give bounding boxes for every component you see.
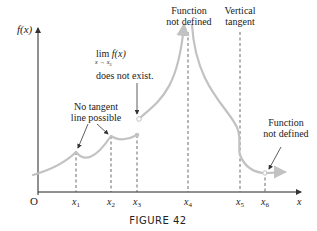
annotation-limit: lim f(x) x → x3 does not exist. <box>94 48 154 81</box>
arrow-no-tangent-x1 <box>78 124 88 148</box>
tick-x3: x3 <box>132 196 141 209</box>
svg-text:line possible: line possible <box>71 112 122 123</box>
y-axis-label: f(x) <box>17 23 33 36</box>
open-dot-x3 <box>137 117 142 122</box>
origin-label: O <box>30 195 38 207</box>
lim-text: does not exist. <box>96 70 154 81</box>
curve-seg-x4-x6 <box>192 25 263 173</box>
svg-text:not defined: not defined <box>263 128 308 139</box>
curve-seg-right <box>267 172 285 173</box>
annotation-no-tangent: No tangent line possible <box>71 101 122 123</box>
tick-x4: x4 <box>183 196 192 209</box>
svg-text:Function: Function <box>268 117 304 128</box>
annotation-vertical-tangent: Vertical tangent <box>224 5 255 27</box>
curve-seg-x2-x3 <box>111 135 137 139</box>
tick-x2: x2 <box>106 196 115 209</box>
svg-text:Vertical: Vertical <box>224 5 255 16</box>
tick-x6: x6 <box>260 196 269 209</box>
annotation-arrows <box>78 83 281 169</box>
tick-x1: x1 <box>71 196 80 209</box>
curve-seg-left <box>33 152 76 175</box>
arrow-not-defined-right <box>269 147 281 169</box>
svg-text:not defined: not defined <box>166 16 211 27</box>
x-tick-labels: x1 x2 x3 x4 x5 x6 <box>71 196 269 209</box>
svg-text:No tangent: No tangent <box>74 101 118 112</box>
nondifferentiable-function-figure: f(x) O x1 x2 x3 x4 x5 x6 x FIGURE 42 No … <box>0 0 317 231</box>
svg-text:tangent: tangent <box>225 16 255 27</box>
tick-x5: x5 <box>235 196 244 209</box>
closed-dot-x3 <box>135 133 140 138</box>
x-axis-label: x <box>296 196 302 207</box>
annotation-not-defined-top: Function not defined <box>166 5 211 27</box>
arrow-no-tangent-x2 <box>97 124 108 134</box>
annotation-not-defined-right: Function not defined <box>263 117 308 139</box>
figure-caption: FIGURE 42 <box>129 215 186 226</box>
svg-text:Function: Function <box>171 5 207 16</box>
lim-under: x → x3 <box>94 59 112 67</box>
function-curve <box>33 25 285 175</box>
